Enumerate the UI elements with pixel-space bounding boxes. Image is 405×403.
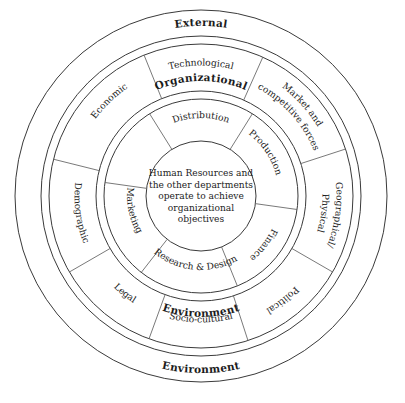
middle-segment-label-political: Political — [265, 285, 302, 317]
inner-segment-label-research-and-design: Research & Design — [152, 246, 238, 272]
inner-band-divider — [255, 204, 297, 210]
inner-segment-label-marketing: Marketing — [125, 187, 146, 235]
middle-segment-label-demographic: Demographic — [72, 182, 92, 244]
core-text-line: Human Resources and — [149, 168, 253, 178]
middle-segment-label-technological: Technological — [167, 56, 235, 71]
organizational-environment-diagram: ExternalEnvironmentOrganizationalEnviron… — [0, 0, 405, 403]
core-text-line: the other departments — [149, 180, 253, 190]
core-text-line: objectives — [178, 214, 225, 224]
concentric-rings-svg: ExternalEnvironmentOrganizationalEnviron… — [0, 0, 405, 403]
middle-band-divider — [301, 149, 346, 164]
middle-band-divider — [54, 159, 100, 170]
outer-band-bottom-label: Environment — [161, 359, 241, 375]
core-text-line: organizational — [168, 203, 234, 213]
middle-band-divider — [149, 295, 165, 339]
middle-segment-label-legal: Legal — [112, 281, 138, 305]
inner-segment-label-distribution: Distribution — [171, 109, 232, 125]
middle-band-divider — [69, 249, 110, 273]
middle-band-divider — [292, 249, 333, 273]
middle-segment-label-economic: Economic — [88, 80, 129, 120]
middle-band-divider — [244, 57, 263, 100]
core-text-line: operate to achieve — [158, 191, 244, 201]
outer-band-top-label: External — [174, 16, 229, 30]
middle-band-divider — [144, 55, 162, 99]
core-text: Human Resources andthe other departments… — [149, 168, 253, 224]
inner-band-divider — [230, 114, 252, 150]
inner-band-divider — [150, 114, 172, 150]
middle-segment-label2-geographical-physical: Physical — [315, 194, 331, 235]
middle-band-top-label: Organizational — [153, 71, 250, 92]
